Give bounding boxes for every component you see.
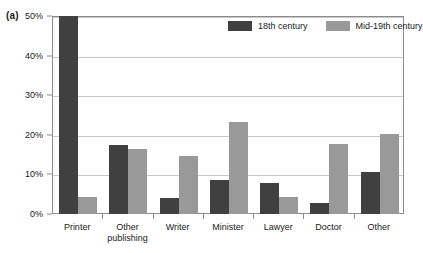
x-tick-mark bbox=[153, 214, 154, 219]
y-axis: 0%10%20%30%40%50% bbox=[0, 0, 52, 253]
x-tick-mark bbox=[102, 214, 103, 219]
bar bbox=[361, 172, 380, 214]
y-tick-label: 0% bbox=[30, 209, 43, 219]
bar bbox=[279, 197, 298, 214]
bar-group bbox=[153, 16, 203, 214]
bar bbox=[229, 122, 248, 214]
bar bbox=[329, 144, 348, 214]
bar bbox=[310, 203, 329, 214]
legend: 18th centuryMid-19th century bbox=[228, 21, 423, 31]
x-category-label-line: Minister bbox=[203, 222, 253, 233]
x-tick-mark bbox=[203, 214, 204, 219]
bar bbox=[78, 197, 97, 214]
bar-group bbox=[303, 16, 353, 214]
bar bbox=[160, 198, 179, 214]
y-tick-label: 30% bbox=[25, 90, 43, 100]
bar bbox=[109, 145, 128, 214]
legend-entry: 18th century bbox=[228, 21, 308, 31]
x-category-label: Writer bbox=[153, 222, 203, 233]
x-category-label: Printer bbox=[52, 222, 102, 233]
x-category-label-line: publishing bbox=[102, 233, 152, 244]
bar bbox=[380, 134, 399, 214]
legend-swatch-18th-century bbox=[228, 21, 252, 31]
x-category-label-line: Other bbox=[102, 222, 152, 233]
x-category-label: Otherpublishing bbox=[102, 222, 152, 244]
bar bbox=[260, 183, 279, 214]
y-tick-label: 50% bbox=[25, 11, 43, 21]
x-category-label: Lawyer bbox=[253, 222, 303, 233]
x-category-label: Other bbox=[354, 222, 404, 233]
x-category-label-line: Lawyer bbox=[253, 222, 303, 233]
legend-swatch-mid-19th-century bbox=[326, 21, 350, 31]
x-tick-mark bbox=[253, 214, 254, 219]
bars-layer bbox=[52, 16, 404, 214]
legend-label: 18th century bbox=[258, 21, 308, 31]
x-category-label-line: Doctor bbox=[303, 222, 353, 233]
bar-group bbox=[253, 16, 303, 214]
bar-group bbox=[52, 16, 102, 214]
y-tick-label: 40% bbox=[25, 51, 43, 61]
legend-label: Mid-19th century bbox=[356, 21, 423, 31]
x-tick-mark bbox=[354, 214, 355, 219]
bar-group bbox=[102, 16, 152, 214]
x-category-label-line: Other bbox=[354, 222, 404, 233]
bar bbox=[210, 180, 229, 214]
legend-entry: Mid-19th century bbox=[326, 21, 423, 31]
bar bbox=[128, 149, 147, 214]
bar bbox=[179, 156, 198, 214]
x-category-label: Minister bbox=[203, 222, 253, 233]
bar-group bbox=[354, 16, 404, 214]
y-tick-label: 10% bbox=[25, 169, 43, 179]
bar-group bbox=[203, 16, 253, 214]
x-axis: PrinterOtherpublishingWriterMinisterLawy… bbox=[52, 214, 404, 253]
bar bbox=[59, 16, 78, 214]
y-tick-label: 20% bbox=[25, 130, 43, 140]
x-category-label: Doctor bbox=[303, 222, 353, 233]
x-category-label-line: Printer bbox=[52, 222, 102, 233]
x-tick-mark bbox=[303, 214, 304, 219]
x-category-label-line: Writer bbox=[153, 222, 203, 233]
